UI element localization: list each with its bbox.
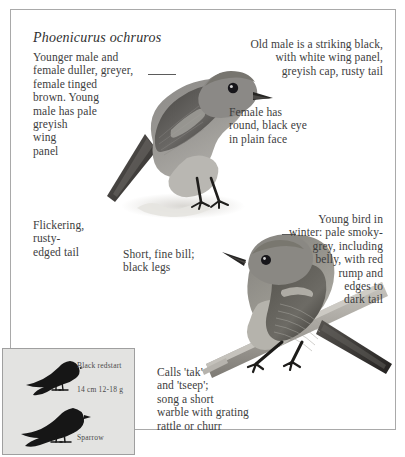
callout-young-bird-winter: Young bird in winter: pale smoky- grey, … bbox=[251, 213, 383, 307]
callout-calls-and-song: Calls 'tak' and 'tseep'; song a short wa… bbox=[157, 366, 317, 433]
inset-label-measurements: 14 cm 12-18 g bbox=[77, 385, 123, 394]
inset-label-black-redstart: Black redstart bbox=[77, 361, 122, 370]
callout-bill-and-legs: Short, fine bill; black legs bbox=[123, 248, 253, 275]
callout-younger-male-female: Younger male and female duller, greyer, … bbox=[33, 51, 183, 158]
callout-female-eye: Female has round, black eye in plain fac… bbox=[229, 106, 359, 146]
callout-old-male: Old male is a striking black, with white… bbox=[198, 38, 383, 78]
size-comparison-inset: Black redstart 14 cm 12-18 g Sparrow bbox=[2, 348, 135, 455]
species-scientific-name: Phoenicurus ochruros bbox=[33, 30, 161, 46]
inset-label-sparrow: Sparrow bbox=[77, 433, 104, 442]
black-redstart-silhouette-icon bbox=[23, 355, 83, 395]
